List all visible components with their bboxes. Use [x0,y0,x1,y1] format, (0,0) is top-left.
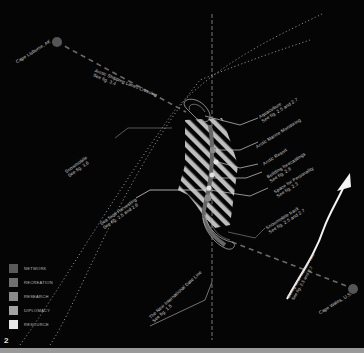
hatched-zone [178,118,238,228]
loop-top [184,99,210,121]
legend-swatch [9,306,18,315]
leader-snowmobile-track [228,228,265,238]
legend-label: RESOURCE [24,322,49,327]
figure-number: 2 [4,336,8,345]
legend-label: RECREATION [24,280,53,285]
legend-swatch [9,264,18,273]
legend-label: NETWORK [24,266,47,271]
cape-lisburne-marker [52,37,62,47]
bottom-border [0,348,364,353]
diagram-canvas: Cape Lisburne, AK Cape Wales, U.S. Arcti… [0,0,364,348]
dashed-link-wales [232,242,352,288]
legend-swatch [9,320,18,329]
leader-snowmobile-left [115,128,172,138]
node-2 [214,160,219,165]
node-3 [210,173,215,178]
legend-label: DIPLOMACY [24,308,50,313]
node-5 [205,195,212,202]
dashed-link-lisburne [57,42,186,112]
legend-label: RESEARCH [24,294,49,299]
arrow-head-icon [337,173,351,191]
legend-swatch [9,292,18,301]
loop-top-2 [189,104,205,112]
legend-swatch [9,278,18,287]
